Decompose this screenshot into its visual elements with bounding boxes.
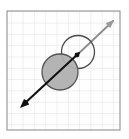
figure-root (0, 0, 129, 139)
diagram-canvas (0, 0, 129, 139)
contact-point-dot (75, 53, 80, 58)
